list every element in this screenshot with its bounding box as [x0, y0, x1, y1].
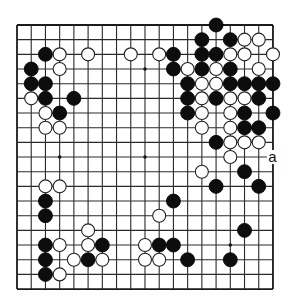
white-stone	[238, 136, 251, 149]
black-stone	[238, 121, 252, 135]
white-stone	[39, 121, 52, 134]
white-stone	[53, 239, 66, 252]
black-stone	[166, 238, 180, 252]
black-stone	[238, 77, 252, 91]
white-stone	[195, 121, 208, 134]
black-stone	[38, 267, 52, 281]
black-stone	[53, 106, 67, 120]
black-stone	[223, 77, 237, 91]
white-stone	[195, 165, 208, 178]
black-stone	[38, 209, 52, 223]
white-stone	[39, 107, 52, 120]
white-stone	[153, 253, 166, 266]
black-stone	[181, 106, 195, 120]
black-stone	[209, 135, 223, 149]
black-stone	[38, 91, 52, 105]
star-point	[143, 155, 146, 158]
white-stone	[252, 136, 265, 149]
black-stone	[95, 238, 109, 252]
white-stone	[153, 48, 166, 61]
black-stone	[24, 62, 38, 76]
star-point	[58, 155, 61, 158]
black-stone	[166, 194, 180, 208]
star-point	[143, 67, 146, 70]
white-stone	[210, 77, 223, 90]
black-stone	[266, 106, 280, 120]
white-stone	[82, 224, 95, 237]
black-stone	[209, 179, 223, 193]
white-stone	[224, 151, 237, 164]
stones-layer	[24, 18, 280, 281]
white-stone	[53, 268, 66, 281]
black-stone	[38, 194, 52, 208]
black-stone	[223, 253, 237, 267]
white-stone	[224, 107, 237, 120]
white-stone	[238, 48, 251, 61]
black-stone	[152, 238, 166, 252]
white-stone	[138, 253, 151, 266]
white-stone	[53, 180, 66, 193]
black-stone	[252, 179, 266, 193]
white-stone	[195, 77, 208, 90]
black-stone	[67, 91, 81, 105]
white-stone	[195, 107, 208, 120]
white-stone	[67, 253, 80, 266]
black-stone	[238, 223, 252, 237]
white-stone	[53, 121, 66, 134]
black-stone	[38, 253, 52, 267]
black-stone	[38, 47, 52, 61]
black-stone	[166, 62, 180, 76]
black-stone	[195, 33, 209, 47]
white-stone	[238, 33, 251, 46]
white-stone	[195, 92, 208, 105]
black-stone	[238, 165, 252, 179]
go-board[interactable]: a	[0, 0, 296, 308]
black-stone	[195, 47, 209, 61]
go-board-diagram[interactable]: a	[0, 0, 296, 308]
point-label-a: a	[268, 148, 277, 165]
white-stone	[153, 209, 166, 222]
white-stone	[224, 48, 237, 61]
black-stone	[252, 91, 266, 105]
white-stone	[210, 63, 223, 76]
black-stone	[181, 253, 195, 267]
black-stone	[166, 47, 180, 61]
black-stone	[252, 121, 266, 135]
white-stone	[82, 48, 95, 61]
white-stone	[252, 33, 265, 46]
black-stone	[209, 91, 223, 105]
white-stone	[252, 63, 265, 76]
black-stone	[81, 253, 95, 267]
white-stone	[82, 239, 95, 252]
star-point	[229, 243, 232, 246]
black-stone	[38, 77, 52, 91]
white-stone	[224, 92, 237, 105]
move-labels: a	[267, 148, 278, 165]
black-stone	[181, 77, 195, 91]
white-stone	[224, 121, 237, 134]
black-stone	[181, 91, 195, 105]
white-stone	[238, 92, 251, 105]
black-stone	[266, 77, 280, 91]
white-stone	[39, 180, 52, 193]
black-stone	[238, 106, 252, 120]
black-stone	[252, 77, 266, 91]
white-stone	[138, 239, 151, 252]
black-stone	[209, 18, 223, 32]
white-stone	[25, 92, 38, 105]
white-stone	[181, 63, 194, 76]
black-stone	[195, 62, 209, 76]
black-stone	[24, 77, 38, 91]
white-stone	[53, 48, 66, 61]
white-stone	[96, 253, 109, 266]
black-stone	[223, 33, 237, 47]
black-stone	[38, 238, 52, 252]
black-stone	[223, 62, 237, 76]
white-stone	[124, 48, 137, 61]
white-stone	[266, 48, 279, 61]
white-stone	[53, 63, 66, 76]
black-stone	[209, 47, 223, 61]
white-stone	[224, 136, 237, 149]
